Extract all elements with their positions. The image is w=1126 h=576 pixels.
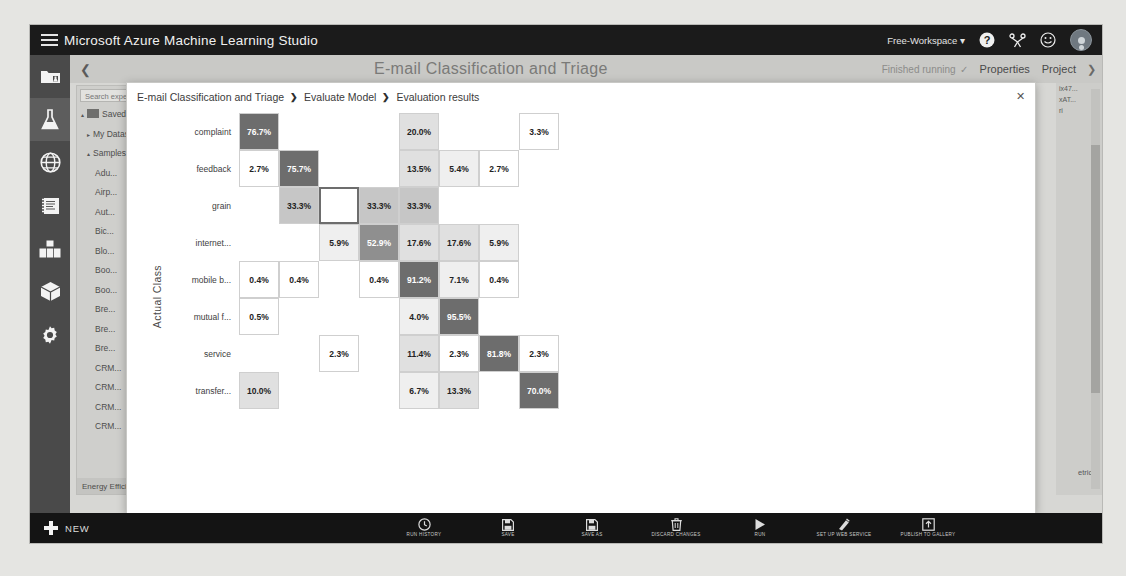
matrix-cell[interactable]: 5.9% <box>479 224 519 261</box>
help-icon[interactable]: ? <box>979 32 995 48</box>
matrix-cell[interactable]: 2.3% <box>439 335 479 372</box>
matrix-cell[interactable]: 17.6% <box>399 224 439 261</box>
hamburger-menu-icon[interactable] <box>30 34 64 46</box>
matrix-cell[interactable]: 33.3% <box>399 187 439 224</box>
matrix-cell[interactable]: 0.5% <box>239 298 279 335</box>
plus-icon <box>44 521 58 535</box>
matrix-cell[interactable]: 2.7% <box>479 150 519 187</box>
matrix-cell[interactable]: 0.4% <box>279 261 319 298</box>
expand-right-panel-icon[interactable]: ❯ <box>1087 63 1096 76</box>
module-tree-item-label: Airp... <box>95 187 117 197</box>
sidebar-item-experiments[interactable] <box>30 98 70 141</box>
matrix-cell[interactable] <box>439 187 479 224</box>
matrix-cell[interactable]: 2.7% <box>239 150 279 187</box>
matrix-cell[interactable]: 91.2% <box>399 261 439 298</box>
matrix-cell[interactable]: 20.0% <box>399 113 439 150</box>
matrix-cell[interactable]: 0.4% <box>479 261 519 298</box>
y-axis-label: Actual Class <box>151 265 163 328</box>
matrix-cell[interactable]: 76.7% <box>239 113 279 150</box>
matrix-cell[interactable]: 2.3% <box>319 335 359 372</box>
matrix-cell[interactable]: 2.3% <box>519 335 559 372</box>
sidebar-item-datasets[interactable] <box>30 227 70 270</box>
matrix-cell[interactable] <box>359 335 399 372</box>
sidebar-item-settings[interactable] <box>30 313 70 356</box>
matrix-cell[interactable]: 81.8% <box>479 335 519 372</box>
matrix-cell[interactable] <box>319 113 359 150</box>
matrix-cell[interactable] <box>279 298 319 335</box>
breadcrumb-item-experiment[interactable]: E-mail Classification and Triage <box>137 91 284 103</box>
close-icon[interactable]: ✕ <box>1015 91 1026 102</box>
matrix-cell[interactable] <box>279 113 319 150</box>
command-run-history[interactable]: RUN HISTORY <box>395 518 453 538</box>
feedback-smiley-icon[interactable] <box>1040 32 1056 48</box>
matrix-cell[interactable]: 7.1% <box>439 261 479 298</box>
sidebar-item-notebooks[interactable] <box>30 184 70 227</box>
matrix-cell[interactable]: 5.9% <box>319 224 359 261</box>
sidebar-item-projects[interactable] <box>30 55 70 98</box>
matrix-cell[interactable] <box>359 113 399 150</box>
matrix-cell[interactable]: 52.9% <box>359 224 399 261</box>
matrix-cell[interactable] <box>479 298 519 335</box>
canvas-scrollbar[interactable] <box>1091 89 1100 489</box>
matrix-cell[interactable]: 33.3% <box>359 187 399 224</box>
matrix-cell[interactable] <box>519 261 559 298</box>
matrix-cell[interactable]: 13.3% <box>439 372 479 409</box>
matrix-cell[interactable]: 4.0% <box>399 298 439 335</box>
matrix-cell[interactable] <box>279 372 319 409</box>
matrix-cell[interactable] <box>319 261 359 298</box>
matrix-cell[interactable]: 5.4% <box>439 150 479 187</box>
share-icon[interactable] <box>1009 33 1026 48</box>
matrix-cell[interactable] <box>439 113 479 150</box>
chevron-icon[interactable]: ▴ <box>87 151 90 157</box>
matrix-cell[interactable]: 33.3% <box>279 187 319 224</box>
matrix-cell[interactable]: 6.7% <box>399 372 439 409</box>
command-discard-changes[interactable]: DISCARD CHANGES <box>647 518 705 538</box>
matrix-cell[interactable] <box>239 335 279 372</box>
matrix-cell[interactable] <box>519 150 559 187</box>
matrix-cell[interactable] <box>519 298 559 335</box>
breadcrumb-item-module[interactable]: Evaluate Model <box>304 91 376 103</box>
chevron-icon[interactable]: ▴ <box>81 112 84 118</box>
new-button[interactable]: NEW <box>30 521 210 535</box>
command-save-as[interactable]: SAVE AS <box>563 518 621 538</box>
matrix-cell[interactable]: 13.5% <box>399 150 439 187</box>
matrix-cell[interactable]: 11.4% <box>399 335 439 372</box>
sidebar-item-trained-models[interactable] <box>30 270 70 313</box>
matrix-cell[interactable] <box>239 187 279 224</box>
matrix-cell[interactable]: 70.0% <box>519 372 559 409</box>
matrix-cell[interactable]: 3.3% <box>519 113 559 150</box>
matrix-cell[interactable] <box>479 113 519 150</box>
matrix-cell[interactable] <box>359 150 399 187</box>
matrix-cell[interactable]: 17.6% <box>439 224 479 261</box>
matrix-cell[interactable] <box>479 187 519 224</box>
matrix-cell[interactable] <box>519 187 559 224</box>
matrix-cell[interactable] <box>319 187 359 224</box>
matrix-cell[interactable]: 95.5% <box>439 298 479 335</box>
matrix-cell[interactable] <box>279 335 319 372</box>
matrix-cell[interactable]: 75.7% <box>279 150 319 187</box>
matrix-cell[interactable] <box>359 372 399 409</box>
matrix-cell[interactable]: 0.4% <box>359 261 399 298</box>
tab-project[interactable]: Project <box>1042 63 1076 75</box>
matrix-cell[interactable]: 0.4% <box>239 261 279 298</box>
matrix-cell[interactable] <box>279 224 319 261</box>
chevron-icon[interactable]: ▸ <box>87 132 90 138</box>
matrix-cell[interactable] <box>319 372 359 409</box>
scrollbar-thumb[interactable] <box>1091 145 1100 393</box>
command-publish-to-gallery[interactable]: PUBLISH TO GALLERY <box>899 518 957 538</box>
sidebar-item-web-services[interactable] <box>30 141 70 184</box>
matrix-cell[interactable]: 10.0% <box>239 372 279 409</box>
workspace-selector[interactable]: Free-Workspace ▾ <box>887 35 965 46</box>
matrix-cell[interactable] <box>479 372 519 409</box>
tab-properties[interactable]: Properties <box>980 63 1030 75</box>
avatar[interactable] <box>1070 29 1092 51</box>
command-set-up-web-service[interactable]: SET UP WEB SERVICE <box>815 518 873 538</box>
matrix-cell[interactable] <box>239 224 279 261</box>
command-run[interactable]: RUN <box>731 518 789 538</box>
command-save[interactable]: SAVE <box>479 518 537 538</box>
matrix-cell[interactable] <box>359 298 399 335</box>
collapse-panel-icon[interactable]: ❮ <box>70 62 100 77</box>
matrix-cell[interactable] <box>519 224 559 261</box>
matrix-cell[interactable] <box>319 298 359 335</box>
matrix-cell[interactable] <box>319 150 359 187</box>
